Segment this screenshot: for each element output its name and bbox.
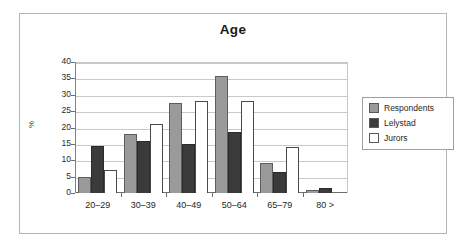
bar-group — [121, 62, 167, 193]
x-axis-tick-label: 50–64 — [212, 200, 258, 210]
bar-series-layer — [75, 62, 348, 193]
bar-group — [303, 62, 349, 193]
bar-group — [257, 62, 303, 193]
x-axis-tick-label: 65–79 — [257, 200, 303, 210]
y-axis-tick-label: 15 — [49, 139, 71, 148]
legend-item[interactable]: Jurors — [369, 133, 447, 143]
x-axis-tick — [166, 193, 167, 197]
bar-lelystad — [273, 172, 286, 193]
bar-jurors — [104, 170, 117, 193]
bar-lelystad — [182, 144, 195, 193]
legend-item-label: Jurors — [384, 134, 408, 143]
y-axis-tick-label: 25 — [49, 106, 71, 115]
x-axis-tick-label: 30–39 — [121, 200, 167, 210]
x-axis-tick-label: 80 > — [303, 200, 349, 210]
bar-lelystad — [91, 146, 104, 193]
y-axis-tick-labels: 0510152025303540 — [47, 62, 71, 193]
x-axis-tick-label: 20–29 — [75, 200, 121, 210]
legend-item-label: Lelystad — [384, 119, 416, 128]
y-axis-tick-label: 40 — [49, 57, 71, 66]
chart-title: Age — [0, 22, 466, 37]
legend-swatch-icon — [369, 133, 379, 143]
bar-respondents — [215, 76, 228, 193]
bar-respondents — [78, 177, 91, 193]
bar-respondents — [124, 134, 137, 193]
y-axis-tick-label: 5 — [49, 172, 71, 181]
bar-jurors — [150, 124, 163, 193]
bar-jurors — [195, 101, 208, 193]
y-axis-tick-label: 30 — [49, 90, 71, 99]
bar-group — [166, 62, 212, 193]
y-axis-title: % — [27, 121, 36, 128]
legend-item[interactable]: Respondents — [369, 103, 447, 113]
bar-group — [75, 62, 121, 193]
bar-group — [212, 62, 258, 193]
bar-respondents — [306, 190, 319, 193]
x-axis-tick — [121, 193, 122, 197]
y-axis-tick-label: 20 — [49, 123, 71, 132]
x-axis-tick — [257, 193, 258, 197]
bar-respondents — [169, 103, 182, 193]
legend-swatch-icon — [369, 103, 379, 113]
chart-legend: RespondentsLelystadJurors — [362, 97, 454, 150]
x-axis-tick — [303, 193, 304, 197]
bar-jurors — [286, 147, 299, 193]
legend-item-label: Respondents — [384, 104, 434, 113]
y-axis-tick — [71, 193, 75, 194]
y-axis-tick-label: 10 — [49, 155, 71, 164]
legend-item[interactable]: Lelystad — [369, 118, 447, 128]
x-axis-tick-labels: 20–2930–3940–4950–6465–7980 > — [75, 200, 348, 214]
y-axis-tick-label: 35 — [49, 73, 71, 82]
bar-lelystad — [228, 132, 241, 193]
x-axis-tick — [212, 193, 213, 197]
legend-swatch-icon — [369, 118, 379, 128]
bar-lelystad — [137, 141, 150, 193]
bar-respondents — [260, 163, 273, 193]
x-axis-tick-label: 40–49 — [166, 200, 212, 210]
bar-lelystad — [319, 188, 332, 193]
bar-jurors — [241, 101, 254, 193]
y-axis-tick-label: 0 — [49, 188, 71, 197]
